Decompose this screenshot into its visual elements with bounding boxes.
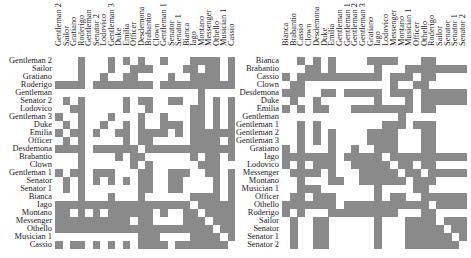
matrix-alphabetical: BiancaBrabantioCassioClownDesdemonaDukeE… bbox=[0, 0, 471, 258]
heatmap-cell bbox=[321, 105, 329, 113]
heatmap-cell bbox=[390, 57, 398, 65]
heatmap-cell bbox=[328, 89, 336, 97]
heatmap-cell bbox=[374, 241, 382, 249]
heatmap-cell bbox=[428, 177, 436, 185]
heatmap-cell bbox=[459, 169, 467, 177]
heatmap-cell bbox=[336, 177, 344, 185]
heatmap-cell bbox=[459, 233, 467, 241]
heatmap-cell bbox=[297, 105, 305, 113]
heatmap-cell bbox=[405, 105, 413, 113]
heatmap-cell bbox=[459, 201, 467, 209]
heatmap-cell bbox=[313, 169, 321, 177]
heatmap-cell bbox=[290, 241, 298, 249]
column-label: Senator 2 bbox=[459, 0, 467, 56]
heatmap-cell bbox=[321, 241, 329, 249]
heatmap-cell bbox=[459, 97, 467, 105]
column-labels: BiancaBrabantioCassioClownDesdemonaDukeE… bbox=[282, 0, 467, 56]
heatmap-cell bbox=[398, 177, 406, 185]
heatmap-cell bbox=[297, 89, 305, 97]
heatmap-grid bbox=[282, 57, 467, 249]
heatmap-cell bbox=[398, 121, 406, 129]
heatmap-cell bbox=[451, 241, 459, 249]
heatmap-cell bbox=[390, 209, 398, 217]
heatmap-cell bbox=[459, 65, 467, 73]
heatmap-cell bbox=[297, 209, 305, 217]
heatmap-cell bbox=[459, 153, 467, 161]
heatmap-cell bbox=[428, 73, 436, 81]
heatmap-cell bbox=[428, 105, 436, 113]
heatmap-cell bbox=[374, 73, 382, 81]
column-label-text: Senator 2 bbox=[459, 14, 467, 46]
heatmap-cell bbox=[282, 105, 290, 113]
heatmap-cell bbox=[313, 137, 321, 145]
row-label: Senator 2 bbox=[247, 241, 279, 249]
